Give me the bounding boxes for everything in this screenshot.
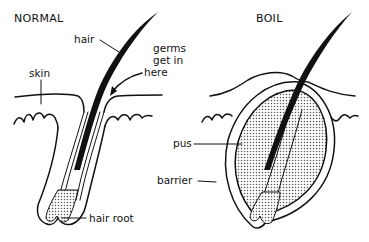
- boil-panel: BOIL pus barrier: [157, 12, 358, 228]
- follicle-wall-right: [72, 126, 105, 224]
- label-barrier: barrier: [157, 174, 193, 186]
- hair-follicle-boil-diagram: NORMAL hair germs get in here skin: [0, 0, 369, 242]
- label-hair-root: hair root: [89, 212, 134, 224]
- hair-bulb: [46, 190, 78, 222]
- boil-title: BOIL: [256, 12, 283, 25]
- label-hair: hair: [74, 33, 95, 45]
- label-germs-2: get in: [153, 54, 183, 66]
- dermis-wave-left: [14, 113, 58, 128]
- dermis-wave-right: [105, 115, 152, 127]
- leader-barrier: [198, 181, 216, 182]
- label-germs-3: here: [144, 66, 168, 78]
- label-pus: pus: [173, 137, 192, 149]
- normal-title: NORMAL: [14, 12, 64, 25]
- root-sheath-line-2: [63, 112, 88, 200]
- normal-panel: NORMAL hair germs get in here skin: [14, 12, 186, 225]
- label-germs-1: germs: [153, 42, 186, 54]
- skin-surface-right: [104, 95, 162, 112]
- label-skin: skin: [29, 67, 50, 79]
- boil-dermis-wave-left: [202, 114, 232, 122]
- skin-surface-left: [15, 94, 84, 112]
- germs-arrow-line: [112, 73, 142, 92]
- leader-hair: [100, 40, 122, 54]
